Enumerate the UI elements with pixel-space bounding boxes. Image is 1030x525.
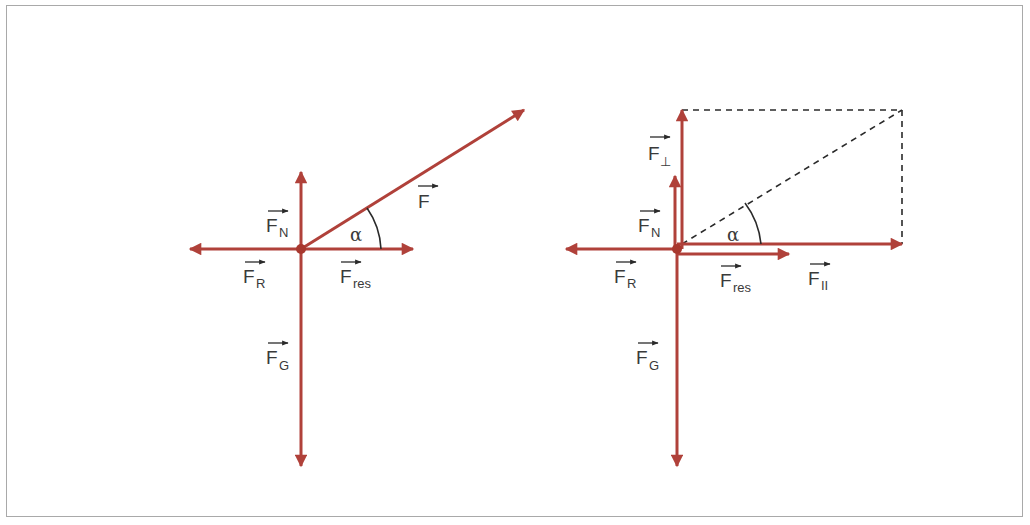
dashed-diagonal [682, 110, 902, 244]
right-diagram: F ⊥ F N F R F res F II F G α [566, 110, 902, 466]
label-f-r: F R [243, 262, 265, 291]
svg-text:F: F [418, 191, 430, 212]
left-diagram: F N F R F res F G F α [190, 110, 524, 466]
label-f: F [418, 186, 438, 212]
label-f-res: F res [340, 262, 372, 291]
svg-text:F: F [648, 143, 660, 164]
svg-text:F: F [720, 270, 732, 291]
svg-text:res: res [733, 280, 752, 295]
angle-arc [745, 203, 761, 244]
origin-dot [672, 244, 682, 254]
force-arrow-f [301, 110, 524, 249]
svg-text:N: N [651, 225, 660, 240]
svg-text:II: II [821, 278, 828, 293]
label-f-g: F G [636, 343, 659, 373]
svg-text:F: F [808, 268, 820, 289]
svg-text:R: R [627, 276, 636, 291]
origin-dot [296, 244, 306, 254]
svg-text:F: F [340, 266, 352, 287]
force-diagram-canvas: F N F R F res F G F α [0, 0, 1030, 525]
label-f-n: F N [266, 211, 288, 240]
svg-text:F: F [638, 215, 650, 236]
label-f-r: F R [614, 262, 636, 291]
svg-text:F: F [266, 215, 278, 236]
svg-text:G: G [279, 358, 289, 373]
label-f-perp: F ⊥ [648, 137, 671, 169]
angle-alpha-label: α [350, 224, 362, 245]
label-f-parallel: F II [808, 264, 830, 293]
svg-text:F: F [243, 266, 255, 287]
angle-alpha-label: α [727, 224, 739, 245]
svg-text:F: F [266, 347, 278, 368]
label-f-res: F res [720, 266, 752, 295]
label-f-n: F N [638, 211, 660, 240]
label-f-g: F G [266, 343, 289, 373]
angle-arc [367, 208, 381, 249]
svg-text:N: N [279, 225, 288, 240]
svg-text:R: R [256, 276, 265, 291]
svg-text:G: G [649, 358, 659, 373]
svg-text:⊥: ⊥ [660, 154, 671, 169]
svg-text:F: F [636, 347, 648, 368]
svg-text:res: res [353, 276, 372, 291]
svg-text:F: F [614, 266, 626, 287]
